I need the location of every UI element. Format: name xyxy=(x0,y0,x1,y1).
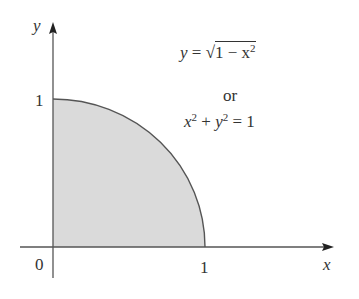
y-axis-label: y xyxy=(33,17,41,34)
equation-or: or xyxy=(223,87,237,104)
eq1-equals: = xyxy=(192,43,202,62)
origin-label: 0 xyxy=(35,256,44,273)
equation-circle: x2 + y2 = 1 xyxy=(184,113,255,130)
shaded-region xyxy=(53,99,205,247)
x-axis-label: x xyxy=(323,256,331,273)
sqrt-body: 1 − x2 xyxy=(215,41,256,62)
x-tick-label: 1 xyxy=(200,259,209,276)
sqrt-sign: √ xyxy=(206,43,215,62)
equation-sqrt: y = √1 − x2 xyxy=(180,44,256,61)
eq1-lhs: y xyxy=(180,43,188,62)
y-tick-label: 1 xyxy=(35,92,44,109)
